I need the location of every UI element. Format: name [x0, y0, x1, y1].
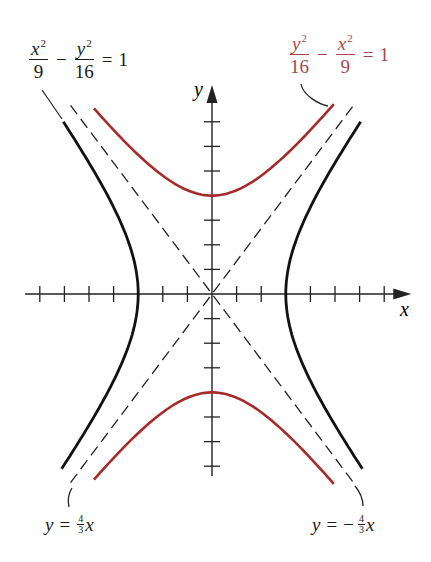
neg-asymptote-leader	[355, 486, 363, 506]
x-axis-label: x	[400, 298, 409, 321]
x-squared-over-9: x2 9	[29, 38, 48, 81]
red-label-leader	[301, 84, 328, 106]
y-axis-arrow-icon	[207, 85, 218, 103]
red-branch-bottom	[94, 392, 334, 484]
black-label-leader	[42, 90, 62, 119]
label-leader-lines	[42, 84, 363, 507]
hyperbola-plot	[0, 0, 431, 562]
asymptote-negative-label: y = − 4 3 x	[312, 514, 374, 535]
asymptote-positive-label: y = 4 3 x	[45, 514, 94, 535]
black-hyperbola-label: x2 9 − y2 16 = 1	[27, 38, 128, 81]
y-squared-over-16: y2 16	[290, 33, 309, 76]
red-hyperbola-label: y2 16 − x2 9 = 1	[288, 33, 389, 76]
four-thirds: 4 3	[358, 514, 365, 535]
y-squared-over-16: y2 16	[75, 38, 94, 81]
four-thirds: 4 3	[77, 514, 84, 535]
y-axis-label: y	[194, 78, 203, 101]
axes	[25, 85, 411, 476]
pos-asymptote-leader	[68, 488, 72, 507]
x-squared-over-9: x2 9	[336, 33, 355, 76]
black-branch-right	[286, 122, 363, 469]
black-branch-left	[62, 122, 139, 469]
red-branch-top	[94, 104, 334, 196]
